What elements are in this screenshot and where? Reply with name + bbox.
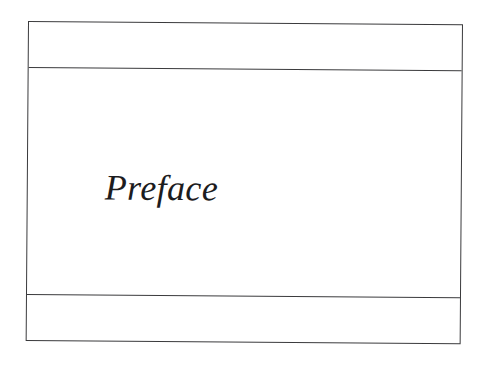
frame-band-body: Preface [27, 68, 462, 297]
ruled-title-frame: Preface [26, 21, 463, 344]
scanned-page: Preface [0, 0, 482, 370]
frame-band-footer [27, 295, 460, 344]
scan-skew-wrapper: Preface [0, 0, 482, 370]
chapter-title: Preface [105, 170, 219, 207]
frame-band-header [29, 22, 462, 70]
